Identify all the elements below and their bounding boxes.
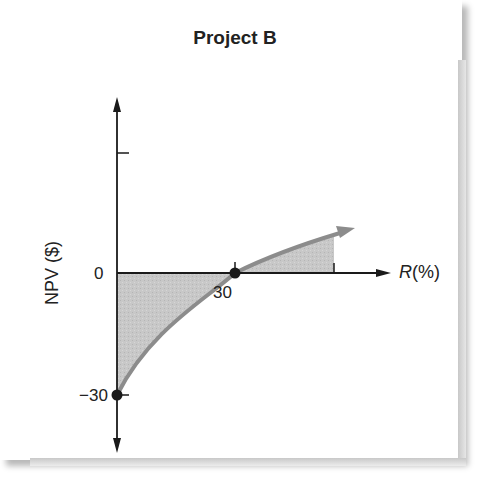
y-axis-up-arrow-icon <box>113 97 121 112</box>
y-tick-label-zero: 0 <box>94 264 103 284</box>
y-tick-label-neg30: −30 <box>79 386 108 406</box>
x-axis-label: R(%) <box>399 262 440 283</box>
point-npv-at-zero-rate <box>112 390 123 401</box>
x-axis-label-var: R <box>399 262 412 282</box>
y-axis-down-arrow-icon <box>113 438 121 453</box>
npv-chart <box>0 0 490 486</box>
x-axis-label-unit: (%) <box>412 262 440 282</box>
curve-arrowhead-icon <box>336 226 355 238</box>
point-irr <box>230 268 241 279</box>
x-axis-right-arrow-icon <box>376 269 391 277</box>
x-tick-label-30: 30 <box>213 283 232 303</box>
